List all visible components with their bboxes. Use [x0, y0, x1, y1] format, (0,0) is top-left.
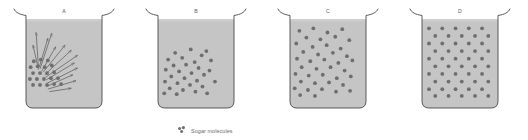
sugar-molecule: [480, 72, 484, 76]
beaker-label-a: A: [62, 8, 66, 14]
sugar-molecule: [180, 56, 184, 60]
sugar-molecule: [454, 87, 458, 91]
sugar-molecule: [38, 83, 42, 87]
beaker-c-liquid-surface: [290, 19, 366, 21]
sugar-molecule: [193, 60, 197, 64]
legend-dot: [182, 126, 185, 129]
sugar-molecule: [329, 65, 333, 69]
sugar-molecule: [334, 90, 338, 94]
sugar-molecule: [188, 83, 192, 87]
sugar-molecule: [433, 64, 437, 68]
sugar-molecule: [467, 57, 471, 61]
sugar-molecule: [473, 94, 477, 98]
legend-dot: [178, 127, 181, 130]
sugar-molecule: [205, 91, 209, 95]
sugar-molecule: [480, 87, 484, 91]
sugar-molecule: [49, 76, 53, 80]
sugar-molecule: [321, 73, 325, 77]
sugar-molecule: [313, 94, 317, 98]
sugar-molecule: [433, 49, 437, 53]
sugar-molecule: [339, 47, 343, 51]
sugar-molecule: [201, 85, 205, 89]
sugar-molecule: [31, 83, 35, 87]
sugar-molecule: [42, 77, 46, 81]
sugar-molecule: [28, 77, 32, 81]
sugar-molecule: [164, 68, 168, 72]
sugar-molecule: [295, 57, 299, 61]
sugar-molecule: [169, 75, 173, 79]
sugar-molecule: [454, 57, 458, 61]
sugar-molecule: [467, 87, 471, 91]
sugar-molecule: [427, 26, 431, 30]
sugar-molecule: [319, 37, 323, 41]
sugar-molecule: [433, 80, 437, 84]
sugar-molecule: [460, 94, 464, 98]
sugar-molecule: [460, 49, 464, 53]
beaker-c: C: [278, 8, 378, 108]
sugar-molecule: [31, 71, 35, 75]
legend-label: Sugar molecules: [191, 128, 233, 134]
sugar-molecule: [427, 42, 431, 46]
sugar-molecule: [348, 89, 352, 93]
sugar-molecule: [486, 80, 490, 84]
sugar-molecule: [480, 57, 484, 61]
sugar-molecule: [454, 42, 458, 46]
sugar-molecule: [163, 80, 167, 84]
sugar-molecule: [313, 81, 317, 85]
sugar-molecule: [427, 87, 431, 91]
sugar-molecule: [172, 64, 176, 68]
sugar-molecule: [480, 42, 484, 46]
sugar-molecule: [460, 64, 464, 68]
sugar-molecule: [202, 73, 206, 77]
sugar-molecule: [347, 38, 351, 42]
sugar-molecule: [340, 27, 344, 31]
sugar-molecule: [454, 72, 458, 76]
sugar-molecule: [36, 64, 40, 68]
sugar-molecule: [460, 80, 464, 84]
sugar-molecule: [173, 51, 177, 55]
sugar-molecule: [189, 48, 193, 52]
sugar-molecule: [480, 26, 484, 30]
sugar-molecule: [45, 83, 49, 87]
sugar-molecule: [297, 29, 301, 33]
sugar-molecule: [306, 88, 310, 92]
sugar-molecule: [333, 35, 337, 39]
diffusion-figure: ABCD Sugar molecules: [0, 0, 528, 140]
sugar-molecule: [440, 72, 444, 76]
sugar-molecule: [50, 64, 54, 68]
sugar-molecule: [195, 79, 199, 83]
sugar-molecule: [294, 42, 298, 46]
sugar-molecule: [467, 42, 471, 46]
sugar-molecule: [325, 43, 329, 47]
sugar-molecule: [29, 65, 33, 69]
sugar-molecule: [440, 42, 444, 46]
sugar-molecule: [190, 71, 194, 75]
sugar-molecule: [327, 80, 331, 84]
beaker-d: D: [410, 8, 510, 108]
beaker-label-d: D: [458, 8, 462, 14]
sugar-molecule: [473, 64, 477, 68]
sugar-molecule: [213, 80, 217, 84]
sugar-molecule: [299, 80, 303, 84]
beaker-label-c: C: [326, 8, 330, 14]
sugar-molecule: [312, 26, 316, 30]
sugar-molecule: [467, 72, 471, 76]
sugar-molecule: [440, 87, 444, 91]
sugar-molecule: [320, 87, 324, 91]
sugar-molecule: [300, 65, 304, 69]
sugar-molecule: [184, 63, 188, 67]
sugar-molecule: [440, 57, 444, 61]
sugar-molecule: [447, 64, 451, 68]
sugar-molecule: [316, 53, 320, 57]
sugar-molecule: [486, 49, 490, 53]
sugar-molecule: [209, 59, 213, 63]
beaker-d-liquid-surface: [422, 19, 498, 21]
sugar-molecule: [311, 45, 315, 49]
sugar-molecule: [166, 58, 170, 62]
sugar-molecule: [326, 31, 330, 35]
sugar-molecule: [293, 86, 297, 90]
sugar-molecule: [473, 34, 477, 38]
sugar-molecule: [454, 26, 458, 30]
sugar-molecule: [304, 36, 308, 40]
sugar-molecule: [45, 71, 49, 75]
